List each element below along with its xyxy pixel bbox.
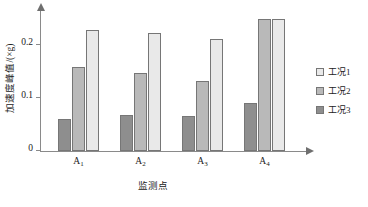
bar: [134, 73, 147, 151]
bar: [86, 30, 99, 151]
x-axis-tick-label: A1: [58, 156, 99, 166]
y-axis-title-text: 加速度峰值/(×g): [2, 43, 16, 112]
bar: [244, 103, 257, 151]
y-axis-line: [40, 10, 41, 151]
bar: [58, 119, 71, 151]
x-axis-title: 监测点: [0, 178, 306, 192]
legend-swatch: [316, 106, 324, 114]
bar: [120, 115, 133, 151]
bar: [182, 116, 195, 151]
legend-item: 工况1: [316, 62, 368, 81]
x-axis-title-text: 监测点: [138, 181, 168, 191]
legend-item: 工况3: [316, 100, 368, 119]
bar: [258, 19, 271, 151]
legend-item: 工况2: [316, 81, 368, 100]
bar: [72, 67, 85, 151]
y-axis-tick-label: 0.2: [21, 37, 33, 47]
x-axis-tick-label: A2: [120, 156, 161, 166]
legend-label: 工况1: [328, 65, 351, 78]
y-axis-tick: 0.2: [36, 44, 41, 45]
y-axis-title: 加速度峰值/(×g): [0, 0, 18, 155]
bar: [272, 19, 285, 151]
y-axis-tick: 0.1: [36, 97, 41, 98]
bar: [148, 33, 161, 151]
legend-label: 工况2: [328, 84, 351, 97]
bar: [196, 81, 209, 151]
x-axis-line: [40, 151, 306, 152]
legend: 工况1工况2工况3: [316, 62, 368, 119]
bar: [210, 39, 223, 151]
x-axis-tick-label: A3: [182, 156, 223, 166]
y-axis-tick-label: 0: [28, 143, 33, 153]
y-axis-tick: 0: [36, 150, 41, 151]
legend-swatch: [316, 68, 324, 76]
plot-area: 00.10.2 A1A2A3A4: [40, 10, 306, 151]
x-axis-tick-label: A4: [244, 156, 285, 166]
y-axis-arrow-icon: [37, 3, 45, 11]
legend-swatch: [316, 87, 324, 95]
legend-label: 工况3: [328, 103, 351, 116]
x-axis-arrow-icon: [306, 147, 314, 155]
y-axis-tick-label: 0.1: [21, 90, 33, 100]
bar-chart-figure: 加速度峰值/(×g) 00.10.2 A1A2A3A4 监测点 工况1工况2工况…: [0, 0, 368, 207]
